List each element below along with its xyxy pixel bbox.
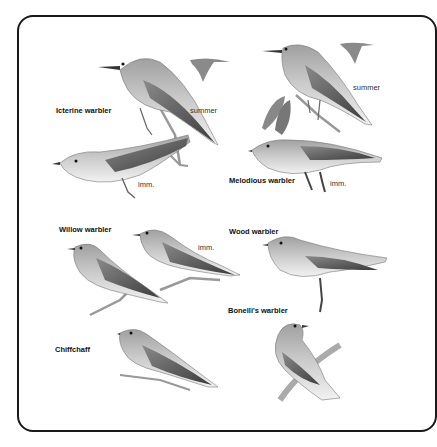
species-label-icterine: Icterine warbler	[56, 106, 111, 115]
icterine-wing-silhouette-icon	[190, 58, 230, 82]
note-melodious-imm: imm.	[330, 179, 346, 188]
note-melodious-summer: summer	[353, 83, 380, 92]
icterine-immature-bird-icon	[52, 135, 190, 198]
species-label-chiffchaff: Chiffchaff	[55, 345, 90, 354]
note-willow-imm: imm.	[198, 243, 214, 252]
species-label-willow: Willow warbler	[59, 225, 111, 234]
species-label-melodious: Melodious warbler	[229, 176, 295, 185]
chiffchaff-bird-icon	[117, 329, 218, 390]
species-label-bonelli: Bonelli's warbler	[228, 306, 288, 315]
willow-immature-bird-icon	[132, 230, 240, 290]
melodious-wing-silhouette-icon	[340, 43, 374, 64]
note-icterine-summer: summer	[190, 106, 217, 115]
species-label-wood: Wood warbler	[229, 227, 278, 236]
wood-warbler-bird-icon	[262, 237, 387, 312]
bonelli-warbler-bird-icon	[275, 324, 340, 400]
note-icterine-imm: imm.	[138, 180, 154, 189]
